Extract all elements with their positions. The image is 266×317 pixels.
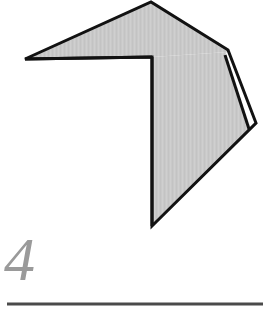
figure-caption-number: 4 bbox=[4, 226, 64, 292]
horizontal-fold-crease bbox=[25, 57, 152, 59]
figure-panel: 4 bbox=[0, 0, 266, 317]
